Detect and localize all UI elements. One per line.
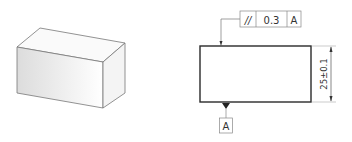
dimension-label: 25±0.1 xyxy=(319,58,329,89)
leader-arrow-icon xyxy=(220,41,223,46)
fcf-datum-reference: A xyxy=(291,15,298,26)
dimension-arrow-bottom-icon xyxy=(330,96,333,102)
fcf-leader-line xyxy=(221,19,240,43)
dimension-arrow-top-icon xyxy=(330,47,333,53)
part-outline xyxy=(200,46,311,102)
datum-triangle-icon xyxy=(222,103,230,109)
orthographic-view: // 0.3 A 25±0.1 A xyxy=(200,11,336,133)
feature-control-frame: // 0.3 A xyxy=(240,11,301,27)
datum-label: A xyxy=(223,121,230,132)
fcf-tolerance-value: 0.3 xyxy=(264,15,280,26)
isometric-block xyxy=(17,28,125,108)
